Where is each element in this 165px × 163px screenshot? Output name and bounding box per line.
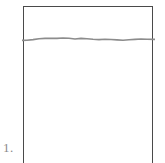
- figure-panel-1: 1.: [0, 0, 165, 163]
- figure-number-label: 1.: [3, 140, 14, 155]
- wavy-line-path: [22, 38, 155, 40]
- wavy-horizontal-line: [22, 30, 155, 48]
